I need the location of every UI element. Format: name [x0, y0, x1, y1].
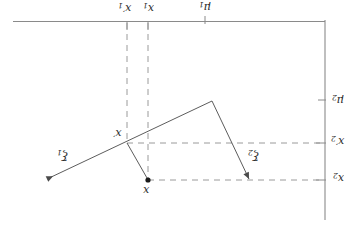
label-x: x: [143, 185, 149, 196]
label-x1-prime: x′1: [118, 3, 131, 14]
label-mu1: μ1: [199, 2, 211, 13]
label-x2-prime: x′2: [331, 136, 344, 147]
xi2-vector: [212, 101, 249, 179]
figure-canvas: x′1 x1 μ1 μ2 x′2 x2 ξ1 ξ2 x′ x: [0, 0, 359, 236]
label-xi2: ξ2: [248, 150, 259, 161]
diagram-svg: [0, 0, 359, 236]
label-x-prime: x′: [113, 128, 122, 139]
label-xi1: ξ1: [57, 150, 68, 161]
x-prime-to-x-segment: [127, 143, 147, 178]
xi1-vector: [47, 101, 212, 179]
label-x2: x2: [333, 173, 344, 184]
label-x1: x1: [143, 3, 154, 14]
point-x-marker: [145, 177, 150, 182]
label-mu2: μ2: [332, 95, 344, 106]
